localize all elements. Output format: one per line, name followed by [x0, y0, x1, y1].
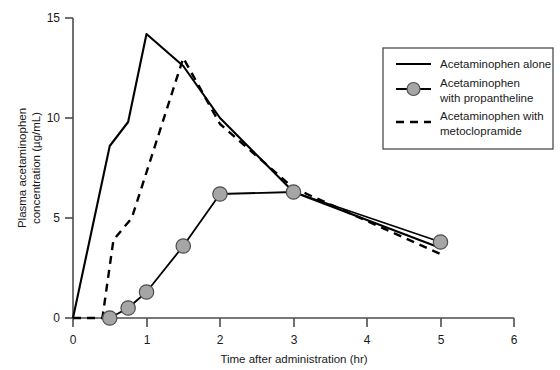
x-axis-ticks: 0 1 2 3 4 5 6 [70, 318, 518, 347]
x-tick-label-6: 6 [511, 333, 518, 347]
x-tick-label-0: 0 [70, 333, 77, 347]
y-axis-title-line1: Plasma acetaminophen [16, 108, 28, 228]
legend-label-propantheline-line2: with propantheline [439, 92, 533, 104]
legend-label-alone: Acetaminophen alone [440, 58, 551, 70]
series-propantheline-markers [103, 185, 448, 325]
plot-canvas: 0 5 10 15 0 1 2 3 4 5 6 Time after admin… [0, 0, 560, 370]
data-point-marker [139, 285, 153, 299]
series-acetaminophen-propantheline [110, 192, 441, 318]
y-axis-title-line2: concentration (µg/mL) [30, 112, 42, 224]
y-tick-label-15: 15 [47, 11, 61, 25]
x-tick-label-4: 4 [364, 333, 371, 347]
data-point-marker [213, 187, 227, 201]
chart-figure: 0 5 10 15 0 1 2 3 4 5 6 Time after admin… [0, 0, 560, 370]
data-point-marker [103, 311, 117, 325]
x-tick-label-3: 3 [291, 333, 298, 347]
legend-swatch-marker-circle [407, 83, 420, 96]
legend: Acetaminophen alone Acetaminophen with p… [383, 48, 553, 149]
y-tick-label-5: 5 [53, 211, 60, 225]
x-tick-label-1: 1 [144, 333, 151, 347]
data-point-marker [176, 239, 190, 253]
legend-label-metoclopramide-line1: Acetaminophen with [440, 110, 544, 122]
y-tick-label-10: 10 [47, 111, 61, 125]
y-axis-ticks: 0 5 10 15 [47, 11, 73, 325]
x-axis-title: Time after administration (hr) [220, 353, 367, 365]
x-tick-label-5: 5 [438, 333, 445, 347]
data-point-marker [433, 235, 447, 249]
data-point-marker [121, 301, 135, 315]
y-tick-label-0: 0 [53, 311, 60, 325]
x-tick-label-2: 2 [217, 333, 224, 347]
legend-label-propantheline-line1: Acetaminophen [440, 77, 520, 89]
legend-label-metoclopramide-line2: metoclopramide [440, 125, 522, 137]
data-point-marker [286, 185, 300, 199]
